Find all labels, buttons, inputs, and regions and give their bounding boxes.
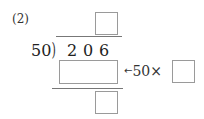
dividend: 206 xyxy=(64,41,112,60)
remainder-answer-box[interactable] xyxy=(95,91,118,114)
hint-text: 50× xyxy=(132,63,162,79)
problem-number: (2) xyxy=(12,12,29,26)
left-arrow-icon: ← xyxy=(124,65,132,76)
dividend-digit: 2 xyxy=(64,41,80,60)
subtraction-line xyxy=(52,88,123,89)
dividend-digit: 0 xyxy=(80,41,96,60)
division-bracket: ) xyxy=(51,38,55,60)
divisor: 50 xyxy=(31,41,51,60)
hint-annotation: ←50× xyxy=(124,63,162,79)
multiplier-answer-box[interactable] xyxy=(172,60,195,83)
dividend-digit: 6 xyxy=(96,41,112,60)
quotient-answer-box[interactable] xyxy=(95,12,118,35)
division-bracket-line xyxy=(56,36,122,37)
product-answer-box[interactable] xyxy=(59,60,118,84)
